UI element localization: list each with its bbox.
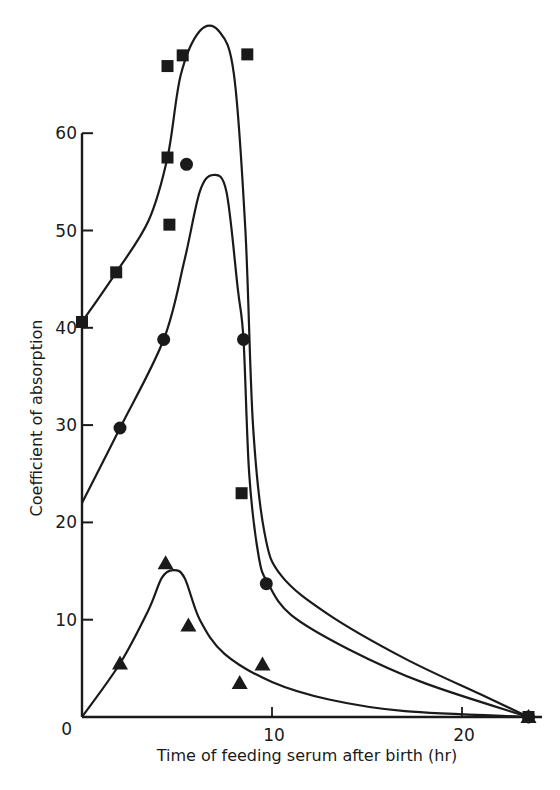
circle-marker	[180, 158, 193, 171]
y-tick-label: 50	[55, 221, 77, 241]
axis-labels: 01020304050601020Time of feeding serum a…	[27, 123, 475, 765]
absorption-chart: 01020304050601020Time of feeding serum a…	[0, 0, 560, 790]
square-marker	[110, 266, 122, 278]
x-tick-label: 20	[453, 725, 475, 745]
fitted-curves	[82, 26, 529, 717]
y-tick-label: 20	[55, 512, 77, 532]
circle-marker	[157, 333, 170, 346]
square-marker	[162, 60, 174, 72]
data-markers	[76, 48, 537, 723]
square-marker	[241, 48, 253, 60]
triangle-marker	[232, 675, 248, 689]
circles-fitted-curve	[82, 175, 529, 717]
y-tick-label: 30	[55, 415, 77, 435]
y-tick-label: 10	[55, 610, 77, 630]
triangle-marker	[255, 656, 271, 670]
square-marker	[236, 487, 248, 499]
triangle-marker	[158, 555, 174, 569]
y-tick-label: 0	[61, 719, 72, 739]
square-marker	[76, 316, 88, 328]
square-marker	[177, 49, 189, 61]
triangle-marker	[112, 655, 128, 669]
circle-marker	[114, 422, 127, 435]
triangle-marker	[180, 618, 196, 632]
square-marker	[163, 219, 175, 231]
square-marker	[162, 152, 174, 164]
circle-marker	[260, 577, 273, 590]
x-axis-title: Time of feeding serum after birth (hr)	[156, 746, 457, 765]
y-axis-title: Coefficient of absorption	[27, 320, 46, 517]
x-tick-label: 10	[263, 725, 285, 745]
y-tick-label: 40	[55, 318, 77, 338]
y-tick-label: 60	[55, 123, 77, 143]
circle-marker	[237, 333, 250, 346]
